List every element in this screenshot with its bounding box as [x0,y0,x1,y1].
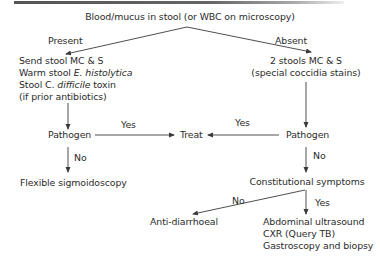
right-pathogen-node: Pathogen [286,129,329,141]
present-label: Present [48,35,82,47]
root-node: Blood/mucus in stool (or WBC on microsco… [85,11,295,23]
left-tests-line3-species: difficile [57,79,90,90]
yes-left-label: Yes [121,119,136,131]
treat-node: Treat [180,129,203,141]
workup-line2: CXR (Query TB) [263,228,335,240]
workup-line3: Gastroscopy and biopsy [263,240,373,252]
flexible-sigmoidoscopy-node: Flexible sigmoidoscopy [20,177,127,189]
left-tests-line2: Warm stool E. histolytica [19,67,132,79]
left-tests-line3-genus: C. [45,79,57,90]
workup-line1: Abdominal ultrasound [263,216,364,228]
right-tests-line1: 2 stools MC & S [270,55,342,67]
arrow-present [66,27,187,54]
arrow-constitutional-no [193,190,305,214]
yes-right-label: Yes [235,117,250,129]
left-tests-line3: Stool C. difficile toxin [19,79,116,91]
anti-diarrhoeal-node: Anti-diarrhoeal [150,216,218,228]
right-tests-line2: (special coccidia stains) [251,67,360,79]
no-right-label: No [313,150,326,162]
constitutional-symptoms-node: Constitutional symptoms [250,176,365,188]
absent-label: Absent [275,35,307,47]
no-left-label: No [74,152,87,164]
left-tests-line2-prefix: Warm stool [19,67,74,78]
no-constitutional-label: No [232,195,245,207]
left-tests-line1: Send stool MC & S [19,55,103,67]
left-tests-line4: (if prior antibiotics) [19,91,107,103]
left-tests-line3-prefix: Stool [19,79,45,90]
left-tests-line3-suffix: toxin [90,79,116,90]
left-pathogen-node: Pathogen [48,129,91,141]
left-tests-line2-organism: E. histolytica [74,67,133,78]
yes-constitutional-label: Yes [315,197,330,209]
